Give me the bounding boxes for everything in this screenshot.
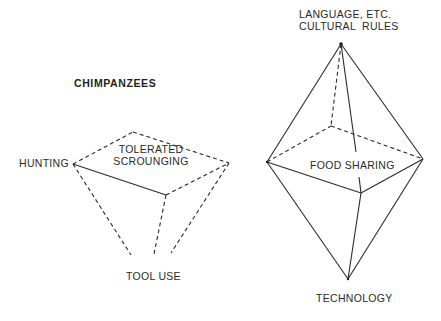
edge-left-bottom [267,162,348,279]
edge-left-back [267,126,331,162]
vertex-left-dot [266,161,268,163]
tolerated-line-1: TOLERATED [106,143,196,155]
edge-front-right [166,163,229,195]
diagram-canvas: CHIMPANZEES HUNTING TOLERATED SCROUNGING… [0,0,441,321]
edge-hunting-tooluse [73,164,131,255]
edge-top-right [341,44,423,159]
edge-top-left [267,44,341,162]
technology-label: TECHNOLOGY [316,292,393,304]
hunting-label: HUNTING [19,157,69,169]
edge-front-tooluse [154,195,166,254]
tool-use-label: TOOL USE [126,270,181,282]
vertex-bottom-dot [347,278,349,280]
edge-right-tooluse [171,163,229,253]
tolerated-scrounging-label: TOLERATED SCROUNGING [106,143,196,167]
food-sharing-label: FOOD SHARING [310,159,395,171]
edge-back-right [331,126,423,159]
vertex-top-dot [339,42,343,46]
edge-hunting-front [73,164,166,195]
edge-top-back [331,44,341,126]
language-line-1: LANGUAGE, ETC. [299,8,399,20]
edge-top-front-lower [359,177,361,193]
edge-front-bottom [348,193,361,279]
chimpanzees-title: CHIMPANZEES [74,77,156,89]
language-line-2: CULTURAL RULES [299,20,399,32]
edge-top-front-upper [341,44,356,152]
tolerated-line-2: SCROUNGING [106,155,196,167]
language-cultural-rules-label: LANGUAGE, ETC. CULTURAL RULES [299,8,399,32]
